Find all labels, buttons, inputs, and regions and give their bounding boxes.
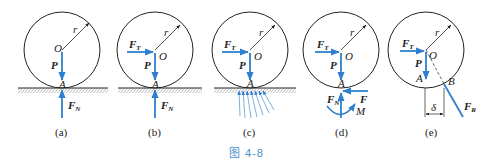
panel-e: r O FT P A B FR δ (e) (388, 12, 476, 139)
svg-text:P: P (330, 59, 337, 71)
svg-text:FN: FN (160, 99, 174, 113)
center-label: O (54, 42, 62, 54)
panel-d: r O FT P A F FN M (d) (303, 12, 379, 139)
svg-text:P: P (239, 59, 246, 71)
caption-c: (c) (243, 126, 256, 139)
caption-a: (a) (55, 126, 68, 139)
distributed-contact-forces (239, 91, 274, 118)
svg-text:O: O (254, 50, 262, 62)
svg-text:r: r (164, 26, 169, 38)
svg-text:FT: FT (316, 38, 329, 52)
figure-caption: 图 4-8 (229, 147, 264, 159)
svg-text:r: r (259, 26, 264, 38)
svg-text:A: A (246, 77, 254, 89)
normal-force-label: FN (67, 99, 81, 113)
point-b-label: B (448, 75, 455, 87)
wheel-force-diagram: r O P A FN (a) r O FT P A FN (b) r O FT … (0, 0, 499, 165)
svg-text:FT: FT (223, 38, 236, 52)
panel-b: r O FT P A FN (b) (117, 12, 202, 139)
svg-text:r: r (350, 26, 355, 38)
moment-label: M (355, 105, 366, 117)
caption-b: (b) (148, 126, 161, 139)
traction-label: FT (128, 38, 141, 52)
svg-text:r: r (435, 26, 440, 38)
friction-label: F (359, 93, 368, 105)
svg-text:O: O (345, 50, 353, 62)
weight-label: P (51, 59, 58, 71)
svg-text:P: P (144, 59, 151, 71)
caption-e: (e) (425, 126, 438, 139)
svg-text:A: A (415, 72, 423, 84)
svg-text:O: O (159, 50, 167, 62)
caption-d: (d) (335, 126, 348, 139)
panel-c: r O FT P A (c) (212, 12, 296, 139)
svg-text:P: P (415, 57, 422, 69)
svg-text:O: O (429, 49, 437, 61)
resultant-force-line (444, 84, 463, 117)
svg-text:FN: FN (326, 93, 340, 107)
svg-text:A: A (337, 77, 345, 89)
radius-label: r (73, 23, 78, 35)
offset-label: δ (431, 101, 437, 113)
svg-text:FT: FT (401, 37, 414, 51)
panel-a: r O P A FN (a) (18, 12, 108, 139)
resultant-label: FR (463, 100, 476, 114)
